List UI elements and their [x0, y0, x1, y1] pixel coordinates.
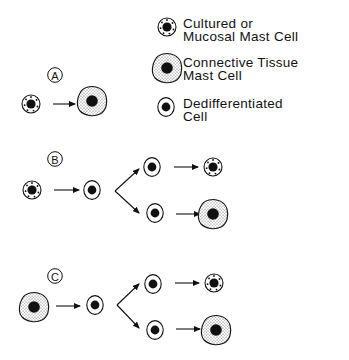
panel-b-label: B: [51, 154, 58, 166]
panel-b: B: [23, 152, 228, 229]
panel-c-label: C: [51, 271, 59, 283]
legend-ctmc-icon: [152, 53, 181, 82]
panel-c: C: [19, 269, 230, 345]
legend-dediff-icon: [158, 98, 174, 117]
mast-cell-diagram: A B C: [0, 0, 349, 360]
legend-mucosal-icon: [158, 18, 176, 36]
legend-item-mucosal: Cultured or Mucosal Mast Cell: [183, 17, 298, 43]
legend-label-line2: Mucosal Mast Cell: [183, 30, 298, 43]
panel-a-label: A: [51, 70, 59, 82]
legend-label-line2: Mast Cell: [183, 69, 298, 82]
legend-item-dediff: Dedifferentiated Cell: [183, 97, 283, 123]
legend-label-line2: Cell: [183, 110, 283, 123]
legend-item-ctmc: Connective Tissue Mast Cell: [183, 56, 298, 82]
panel-a: A: [22, 68, 107, 116]
